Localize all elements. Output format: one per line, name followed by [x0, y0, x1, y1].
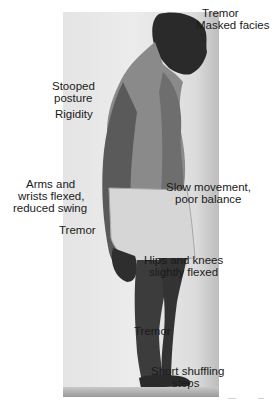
label-hips-knees-2: slightly flexed [149, 266, 218, 279]
scan-artifact [258, 398, 264, 399]
label-short-steps-2: steps [172, 377, 200, 390]
label-stooped-posture-2: posture [54, 92, 92, 105]
label-slow-movement-2: poor balance [175, 193, 242, 206]
label-hand-tremor: Tremor [59, 224, 96, 237]
scan-artifact [228, 398, 236, 399]
label-arms-3: reduced swing [13, 202, 87, 215]
label-leg-tremor: Tremor [134, 325, 171, 338]
label-masked-facies: Masked facies [196, 19, 270, 32]
label-rigidity: Rigidity [55, 108, 93, 121]
